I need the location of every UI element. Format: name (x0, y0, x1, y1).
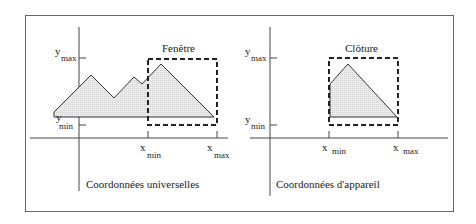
world-xmin-sub: min (147, 150, 162, 160)
world-caption: Coordonnées universelles (86, 178, 199, 190)
world-xmin-label: x (140, 141, 146, 153)
device-clipped-shape (330, 64, 397, 117)
device-xmax-sub: max (403, 146, 419, 156)
viewport-label: Clôture (345, 42, 378, 54)
device-ymin-sub: min (251, 121, 266, 131)
device-xmin-label: x (322, 141, 328, 153)
world-ymax-sub: max (61, 53, 77, 63)
world-xmax-label: x (207, 141, 213, 153)
device-caption: Coordonnées d'appareil (276, 178, 380, 190)
window-viewport-diagram: Fenêtre y max y min x min x max Coordonn… (0, 0, 476, 224)
world-ymin-sub: min (59, 121, 74, 131)
world-xmax-sub: max (214, 150, 230, 160)
device-ymax-sub: max (251, 53, 267, 63)
device-coordinates-panel: Clôture y max y min x min x max Coordonn… (245, 27, 448, 196)
world-coordinates-panel: Fenêtre y max y min x min x max Coordonn… (30, 27, 230, 191)
world-landscape-shape (54, 64, 214, 117)
window-label: Fenêtre (162, 42, 195, 54)
device-xmin-sub: min (332, 146, 347, 156)
device-xmax-label: x (393, 141, 399, 153)
